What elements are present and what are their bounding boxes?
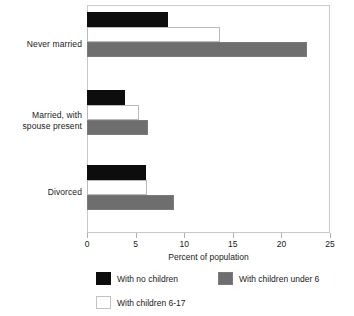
category-label-married-spouse-present: Married, with spouse present <box>2 110 82 131</box>
category-label-line: Divorced <box>2 187 82 198</box>
x-tick-mark <box>281 233 282 238</box>
legend-label: With no children <box>117 274 178 284</box>
x-tick-mark <box>87 233 88 238</box>
bar-divorced-children-under-6 <box>87 195 174 210</box>
bar-married-no-children <box>87 90 125 105</box>
category-label-line: spouse present <box>2 121 82 132</box>
category-label-never-married: Never married <box>2 39 82 50</box>
x-tick-label: 15 <box>218 239 248 249</box>
legend-swatch-icon <box>218 272 233 285</box>
x-tick-label: 5 <box>121 239 151 249</box>
x-tick-label: 10 <box>169 239 199 249</box>
x-tick-mark <box>184 233 185 238</box>
bar-divorced-no-children <box>87 165 146 180</box>
bar-never-married-children-under-6 <box>87 42 307 57</box>
legend-swatch-icon <box>96 296 111 309</box>
category-label-line: Never married <box>2 39 82 50</box>
category-label-line: Married, with <box>2 110 82 121</box>
bar-chart: Never married Married, with spouse prese… <box>0 0 354 316</box>
x-tick-mark <box>136 233 137 238</box>
bar-married-children-under-6 <box>87 120 148 135</box>
legend-item-with-no-children: With no children <box>96 272 178 285</box>
bar-divorced-children-6-17 <box>87 180 147 195</box>
x-tick-label: 0 <box>72 239 102 249</box>
legend-label: With children under 6 <box>239 274 319 284</box>
bar-married-children-6-17 <box>87 105 139 120</box>
x-axis-title: Percent of population <box>87 252 330 262</box>
legend-item-with-children-under-6: With children under 6 <box>218 272 319 285</box>
legend-label: With children 6-17 <box>117 298 186 308</box>
legend-item-with-children-6-17: With children 6-17 <box>96 296 186 309</box>
x-tick-label: 25 <box>315 239 345 249</box>
x-tick-label: 20 <box>266 239 296 249</box>
x-tick-mark <box>330 233 331 238</box>
x-tick-mark <box>233 233 234 238</box>
category-label-divorced: Divorced <box>2 187 82 198</box>
legend-swatch-icon <box>96 272 111 285</box>
bar-never-married-children-6-17 <box>87 27 220 42</box>
bar-never-married-no-children <box>87 12 168 27</box>
legend: With no children With children under 6 W… <box>0 270 354 316</box>
